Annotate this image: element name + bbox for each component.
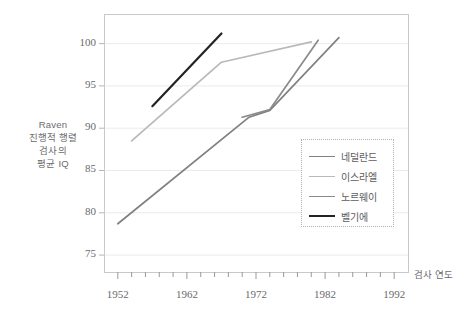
legend-swatch-icon xyxy=(309,215,335,217)
legend-label: 노르웨이 xyxy=(341,189,377,204)
legend-label: 네덜란드 xyxy=(341,149,377,164)
y-tick-label: 90 xyxy=(70,120,96,132)
legend-swatch-icon xyxy=(309,196,335,197)
y-tick-label: 100 xyxy=(70,36,96,48)
x-tick-label: 1992 xyxy=(373,288,415,300)
series-line-3 xyxy=(152,33,221,106)
x-tick-label: 1982 xyxy=(304,288,346,300)
legend-item-0[interactable]: 네덜란드 xyxy=(309,146,377,166)
legend-item-2[interactable]: 노르웨이 xyxy=(309,186,377,206)
x-tick-label: 1972 xyxy=(235,288,277,300)
legend-swatch-icon xyxy=(309,156,335,157)
y-tick-label: 85 xyxy=(70,162,96,174)
legend-label: 벨기에 xyxy=(341,209,368,224)
x-axis-title: 검사 연도 xyxy=(414,268,454,281)
x-tick-label: 1952 xyxy=(97,288,139,300)
y-tick-label: 95 xyxy=(70,78,96,90)
legend-label: 이스라엘 xyxy=(341,169,377,184)
series-line-2 xyxy=(242,40,318,117)
x-tick-label: 1962 xyxy=(166,288,208,300)
legend-item-3[interactable]: 벨기에 xyxy=(309,206,368,226)
legend: 네덜란드이스라엘노르웨이벨기에 xyxy=(301,139,394,227)
legend-item-1[interactable]: 이스라엘 xyxy=(309,166,377,186)
y-tick-label: 75 xyxy=(70,247,96,259)
y-axis-title-line-2: 검사의 xyxy=(14,144,92,157)
y-tick-label: 80 xyxy=(70,205,96,217)
series-line-1 xyxy=(132,42,312,141)
legend-swatch-icon xyxy=(309,176,335,177)
line-chart: Raven진행적 행렬검사의평균 IQ 검사 연도 7580859095100 … xyxy=(0,0,475,313)
y-axis-title-line-1: 진행적 행렬 xyxy=(14,131,92,144)
